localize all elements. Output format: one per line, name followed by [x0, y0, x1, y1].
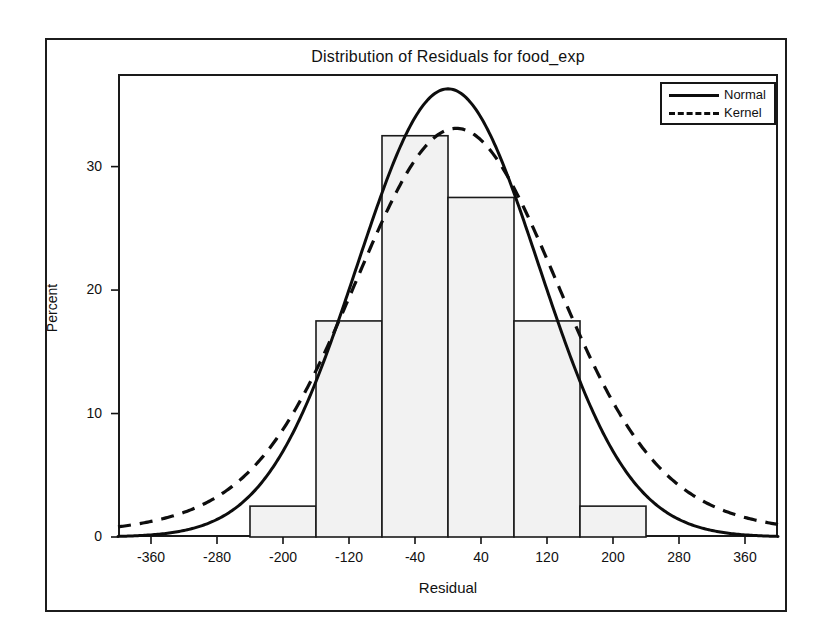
x-tick-label: -360	[121, 549, 181, 565]
histogram-bar	[580, 506, 646, 537]
legend-entry-normal: Normal	[662, 86, 774, 106]
legend-line-dashed-icon	[669, 112, 719, 115]
chart-legend: Normal Kernel	[660, 82, 776, 125]
x-tick-label: -200	[253, 549, 313, 565]
x-tick-label: 280	[649, 549, 709, 565]
chart-page: Distribution of Residuals for food_exp 0…	[0, 0, 829, 641]
y-axis-title: Percent	[44, 238, 60, 378]
y-tick-label: 30	[62, 158, 102, 174]
y-tick-label: 0	[62, 528, 102, 544]
legend-label-kernel: Kernel	[724, 105, 762, 120]
x-tick-label: 40	[451, 549, 511, 565]
x-tick-label: 120	[517, 549, 577, 565]
x-tick-label: -40	[385, 549, 445, 565]
y-tick-label: 20	[62, 281, 102, 297]
histogram-bars	[250, 136, 646, 537]
legend-label-normal: Normal	[724, 87, 766, 102]
histogram-bar	[250, 506, 316, 537]
histogram-bar	[448, 197, 514, 537]
x-tick-label: 360	[715, 549, 775, 565]
x-axis-title: Residual	[118, 579, 778, 596]
x-tick-label: -120	[319, 549, 379, 565]
x-tick-label: 200	[583, 549, 643, 565]
legend-line-solid-icon	[669, 94, 719, 97]
legend-entry-kernel: Kernel	[662, 104, 774, 124]
histogram-bar	[382, 136, 448, 537]
x-tick-label: -280	[187, 549, 247, 565]
y-tick-label: 10	[62, 405, 102, 421]
